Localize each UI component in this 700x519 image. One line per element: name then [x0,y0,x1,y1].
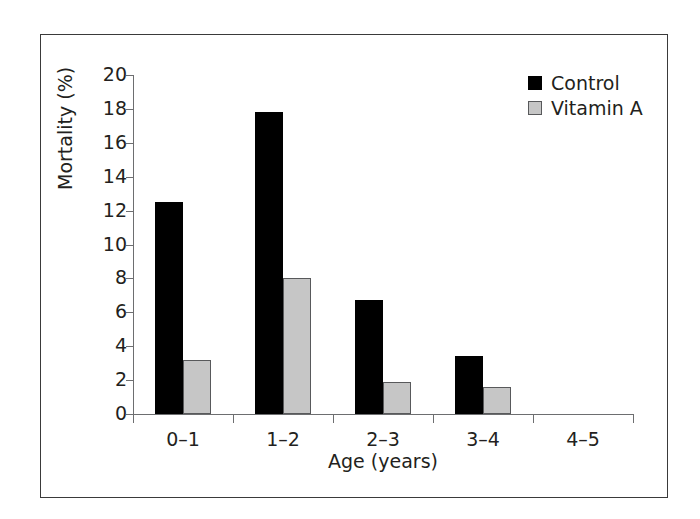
plot-area: 02468101214161820 0–11–22–33–44–5 [133,75,633,414]
y-axis-line [133,75,134,414]
bar-vitamin-a [483,387,511,414]
bar-vitamin-a [183,360,211,414]
bar-control [455,356,483,414]
legend-label: Vitamin A [551,97,643,119]
legend-label: Control [551,72,620,94]
x-axis-category-label: 3–4 [433,427,533,451]
y-axis-tick-label: 4 [115,334,127,356]
x-axis-category-label: 2–3 [333,427,433,451]
y-axis-tick-label: 6 [115,300,127,322]
y-axis-tick-mark [126,414,133,415]
bar-vitamin-a [383,382,411,414]
x-axis-tick-mark [633,414,634,423]
chart-legend: ControlVitamin A [528,70,643,120]
y-axis-tick-label: 16 [103,131,127,153]
x-axis-category-label: 4–5 [533,427,633,451]
bar-control [355,300,383,414]
x-axis-tick-mark [133,414,134,423]
y-axis-tick-mark [126,143,133,144]
y-axis-tick-label: 12 [103,199,127,221]
legend-item: Control [528,70,643,95]
y-axis-tick-label: 8 [115,266,127,288]
legend-item: Vitamin A [528,95,643,120]
y-axis-title: Mortality (%) [54,67,76,190]
legend-swatch-control-icon [528,76,542,90]
bar-control [155,202,183,414]
y-axis-tick-mark [126,278,133,279]
y-axis-tick-label: 14 [103,165,127,187]
bar-vitamin-a [283,278,311,414]
y-axis-tick-label: 20 [103,63,127,85]
y-axis-tick-mark [126,177,133,178]
figure-canvas: Mortality (%) 02468101214161820 0–11–22–… [0,0,700,519]
x-axis-title: Age (years) [133,449,633,473]
y-axis-tick-mark [126,312,133,313]
x-axis-line [133,414,633,415]
y-axis-tick-label: 2 [115,368,127,390]
y-axis-tick-mark [126,75,133,76]
y-axis-tick-mark [126,346,133,347]
legend-swatch-vitamin-a-icon [528,101,542,115]
x-axis-tick-mark [233,414,234,423]
bar-control [255,112,283,414]
x-axis-category-label: 0–1 [133,427,233,451]
x-axis-tick-mark [333,414,334,423]
x-axis-category-label: 1–2 [233,427,333,451]
x-axis-tick-mark [433,414,434,423]
y-axis-tick-label: 0 [115,402,127,424]
y-axis-tick-mark [126,109,133,110]
y-axis-tick-mark [126,380,133,381]
y-axis-tick-mark [126,211,133,212]
y-axis-tick-mark [126,245,133,246]
y-axis-tick-label: 10 [103,233,127,255]
y-axis-tick-label: 18 [103,97,127,119]
x-axis-tick-mark [533,414,534,423]
